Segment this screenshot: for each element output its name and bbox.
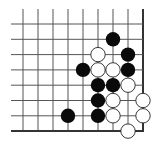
white-stone bbox=[106, 63, 120, 77]
white-stone bbox=[121, 124, 135, 138]
go-board bbox=[0, 0, 160, 155]
white-stone bbox=[136, 109, 150, 123]
black-stone bbox=[91, 78, 105, 92]
white-stone bbox=[91, 47, 105, 61]
black-stone bbox=[106, 32, 120, 46]
white-stone bbox=[121, 78, 135, 92]
black-stone bbox=[91, 93, 105, 107]
black-stone bbox=[106, 78, 120, 92]
black-stone bbox=[91, 109, 105, 123]
white-stone bbox=[106, 109, 120, 123]
white-stone bbox=[106, 93, 120, 107]
white-stone bbox=[91, 63, 105, 77]
black-stone bbox=[76, 63, 90, 77]
black-stone bbox=[61, 109, 75, 123]
black-stone bbox=[121, 47, 135, 61]
white-stone bbox=[136, 93, 150, 107]
black-stone bbox=[121, 63, 135, 77]
